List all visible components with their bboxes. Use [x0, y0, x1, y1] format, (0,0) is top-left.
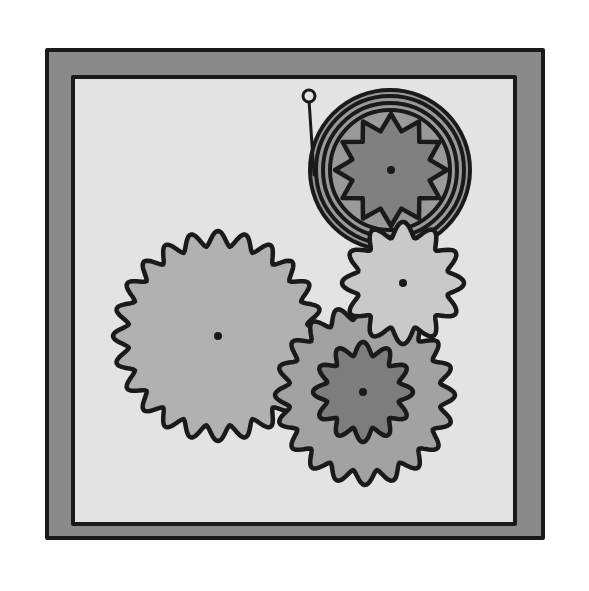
spring-knob: [303, 90, 315, 102]
gear-axle-dot: [399, 279, 407, 287]
gear-axle-dot: [214, 332, 222, 340]
gears-illustration: [0, 0, 589, 591]
gear-axle-dot: [387, 166, 395, 174]
gear-axle-dot: [359, 388, 367, 396]
